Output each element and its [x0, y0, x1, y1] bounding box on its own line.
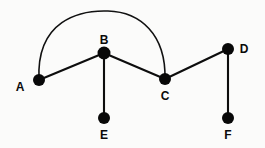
- node-label-D: D: [240, 42, 249, 56]
- node-D[interactable]: [222, 43, 234, 55]
- node-label-F: F: [224, 128, 231, 142]
- node-label-E: E: [100, 128, 108, 142]
- node-B[interactable]: [98, 47, 111, 60]
- edge-B-C: [104, 53, 165, 79]
- node-label-A: A: [16, 80, 25, 94]
- node-label-group: A B C D E F: [16, 33, 249, 142]
- node-label-C: C: [161, 89, 170, 103]
- node-F[interactable]: [222, 112, 234, 124]
- edge-C-D: [165, 49, 228, 79]
- diagram-canvas: A B C D E F: [0, 0, 265, 148]
- node-C[interactable]: [159, 73, 171, 85]
- edge-group: [39, 11, 228, 118]
- node-A[interactable]: [33, 74, 45, 86]
- node-E[interactable]: [98, 112, 110, 124]
- node-label-B: B: [100, 33, 109, 47]
- graph-svg: A B C D E F: [0, 0, 265, 148]
- node-group: [33, 43, 234, 124]
- edge-A-B: [39, 53, 104, 80]
